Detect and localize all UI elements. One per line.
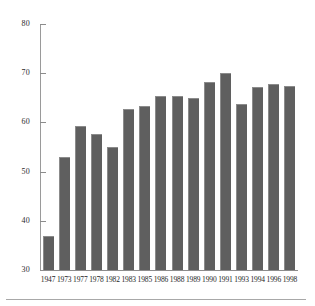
y-axis-line — [40, 24, 41, 271]
bar — [188, 98, 199, 270]
bar — [284, 86, 295, 271]
x-tick-label: 1990 — [201, 274, 217, 285]
bar — [91, 134, 102, 270]
y-axis-tick: 40 — [0, 221, 40, 222]
x-tick-label: 1985 — [137, 274, 153, 285]
y-axis-tick: 30 — [0, 270, 40, 271]
bar — [107, 147, 118, 270]
y-tick-label: 40 — [22, 214, 30, 227]
bar — [172, 96, 183, 270]
y-tick-mark — [40, 221, 46, 222]
y-tick-mark — [40, 270, 46, 271]
x-tick-label: 1991 — [217, 274, 233, 285]
bar — [268, 84, 279, 270]
x-tick-label: 1996 — [266, 274, 282, 285]
y-tick-label: 70 — [22, 66, 30, 79]
x-tick-label: 1982 — [105, 274, 121, 285]
x-tick-label: 1994 — [250, 274, 266, 285]
bar-chart-figure: 807060504030 194719731977197819821983198… — [0, 0, 315, 306]
x-tick-label: 1989 — [185, 274, 201, 285]
bar — [204, 82, 215, 270]
x-tick-label: 1977 — [72, 274, 88, 285]
x-tick-label: 1993 — [234, 274, 250, 285]
x-tick-label: 1973 — [56, 274, 72, 285]
y-axis-tick: 80 — [0, 24, 40, 25]
x-tick-label: 1947 — [40, 274, 56, 285]
bar — [155, 96, 166, 270]
y-tick-mark — [40, 73, 46, 74]
x-axis-line — [40, 270, 298, 271]
y-axis-tick: 70 — [0, 73, 40, 74]
y-tick-mark — [40, 122, 46, 123]
y-tick-label: 50 — [22, 165, 30, 178]
y-tick-mark — [40, 24, 46, 25]
y-tick-label: 30 — [22, 263, 30, 276]
bar — [123, 109, 134, 270]
y-axis-tick: 50 — [0, 172, 40, 173]
x-tick-label: 1998 — [282, 274, 298, 285]
bar — [220, 73, 231, 270]
y-tick-label: 80 — [22, 17, 30, 30]
y-tick-mark — [40, 172, 46, 173]
bar — [139, 106, 150, 270]
y-axis-tick: 60 — [0, 122, 40, 123]
footer-divider — [6, 299, 306, 300]
x-tick-label: 1988 — [169, 274, 185, 285]
bar — [43, 236, 54, 270]
bar — [236, 104, 247, 270]
x-tick-label: 1978 — [88, 274, 104, 285]
y-tick-label: 60 — [22, 115, 30, 128]
bar — [252, 87, 263, 270]
x-tick-label: 1986 — [153, 274, 169, 285]
bar — [59, 157, 70, 270]
x-tick-label: 1983 — [121, 274, 137, 285]
bar — [75, 126, 86, 270]
